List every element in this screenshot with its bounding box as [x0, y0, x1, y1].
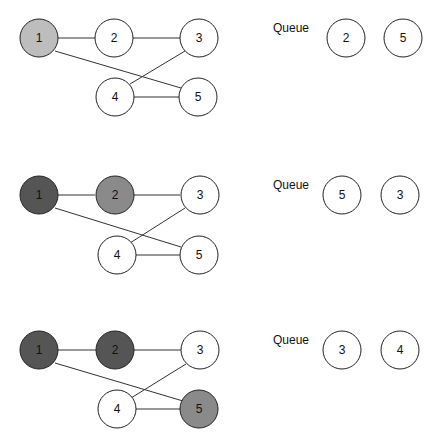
- node-label: 3: [196, 31, 203, 45]
- node-label: 1: [36, 343, 43, 357]
- queue-item-2: 3: [381, 176, 419, 214]
- node-label: 2: [112, 343, 119, 357]
- queue-item-label: 2: [343, 31, 350, 45]
- graph-node-5: 5: [180, 236, 218, 274]
- node-label: 4: [114, 248, 121, 262]
- node-label: 5: [196, 402, 203, 416]
- node-label: 1: [36, 188, 43, 202]
- graph-node-4: 4: [96, 78, 134, 116]
- node-label: 3: [197, 188, 204, 202]
- queue-item-2: 4: [381, 331, 419, 369]
- graph-node-5: 5: [179, 78, 217, 116]
- graph-node-1: 1: [20, 19, 58, 57]
- step-1: 1 2 3 4 5 Queue 2 5: [20, 19, 422, 116]
- graph-node-3: 3: [181, 176, 219, 214]
- node-label: 1: [36, 31, 43, 45]
- step-2: 1 2 3 4 5 Queue 5 3: [20, 176, 419, 274]
- edge-3-4: [130, 208, 185, 243]
- queue-label: Queue: [273, 178, 309, 192]
- queue-item-1: 2: [327, 19, 365, 57]
- queue-item-1: 3: [323, 331, 361, 369]
- queue-item-2: 5: [384, 19, 422, 57]
- edge-3-4: [130, 51, 185, 84]
- node-label: 5: [196, 248, 203, 262]
- node-label: 5: [195, 90, 202, 104]
- edge-3-4: [131, 364, 186, 398]
- queue-item-label: 3: [397, 188, 404, 202]
- graph-node-2: 2: [96, 176, 134, 214]
- graph-node-5: 5: [180, 390, 218, 428]
- node-label: 3: [197, 343, 204, 357]
- node-label: 4: [112, 90, 119, 104]
- graph-node-2: 2: [96, 331, 134, 369]
- queue-item-label: 4: [397, 343, 404, 357]
- queue-item-label: 5: [339, 188, 346, 202]
- queue-label: Queue: [273, 333, 309, 347]
- node-label: 2: [112, 188, 119, 202]
- step-3: 1 2 3 4 5 Queue 3 4: [20, 331, 419, 428]
- queue-item-label: 5: [400, 31, 407, 45]
- node-label: 2: [111, 31, 118, 45]
- graph-node-3: 3: [181, 331, 219, 369]
- queue-item-1: 5: [323, 176, 361, 214]
- graph-node-4: 4: [98, 390, 136, 428]
- queue-label: Queue: [273, 21, 309, 35]
- node-label: 4: [114, 402, 121, 416]
- bfs-diagram: 1 2 3 4 5 Queue 2 5: [0, 0, 436, 445]
- queue-item-label: 3: [339, 343, 346, 357]
- graph-node-1: 1: [20, 331, 58, 369]
- graph-node-4: 4: [98, 236, 136, 274]
- graph-node-1: 1: [20, 176, 58, 214]
- graph-node-2: 2: [95, 19, 133, 57]
- graph-node-3: 3: [180, 19, 218, 57]
